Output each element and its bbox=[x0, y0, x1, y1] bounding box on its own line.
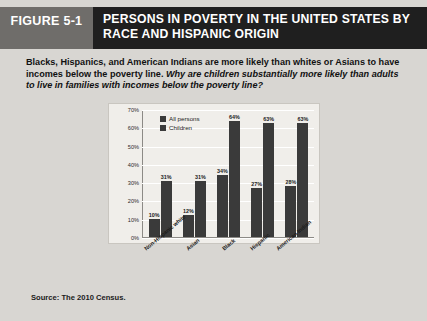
y-axis-tick-label: 0% bbox=[131, 235, 139, 241]
x-axis-category-labels: Non-Hispanic whiteAsianBlackHispanicAmer… bbox=[141, 245, 323, 300]
figure-caption: Blacks, Hispanics, and American Indians … bbox=[26, 57, 404, 92]
bar-group: 28%63% bbox=[285, 110, 308, 237]
figure-title: PERSONS IN POVERTY IN THE UNITED STATES … bbox=[103, 12, 419, 41]
y-axis-tick-label: 10% bbox=[128, 217, 139, 223]
bar-value-label: 63% bbox=[297, 116, 308, 122]
figure-page: FIGURE 5-1 PERSONS IN POVERTY IN THE UNI… bbox=[0, 0, 427, 321]
bar-value-label: 63% bbox=[263, 116, 274, 122]
y-axis-tick-label: 20% bbox=[128, 198, 139, 204]
bar-value-label: 10% bbox=[149, 212, 160, 218]
bar[interactable]: 34% bbox=[217, 175, 228, 237]
bar-group: 27%63% bbox=[251, 110, 274, 237]
figure-number-tag: FIGURE 5-1 bbox=[0, 7, 93, 49]
source-note: Source: The 2010 Census. bbox=[31, 293, 126, 302]
bar-value-label: 27% bbox=[251, 181, 262, 187]
legend-swatch-icon bbox=[160, 116, 166, 122]
legend-item-all-persons: All persons bbox=[160, 115, 200, 122]
bar-group: 34%64% bbox=[217, 110, 240, 237]
bar-value-label: 31% bbox=[195, 174, 206, 180]
y-axis-tick-label: 60% bbox=[128, 125, 139, 131]
bar[interactable]: 31% bbox=[195, 181, 206, 237]
chart-legend: All persons Children bbox=[160, 115, 200, 133]
bar-value-label: 34% bbox=[217, 168, 228, 174]
legend-label: Children bbox=[169, 124, 192, 131]
y-axis-tick-label: 70% bbox=[128, 107, 139, 113]
figure-header: FIGURE 5-1 PERSONS IN POVERTY IN THE UNI… bbox=[0, 7, 427, 49]
bar-value-label: 64% bbox=[229, 114, 240, 120]
bar-value-label: 28% bbox=[285, 179, 296, 185]
legend-label: All persons bbox=[169, 115, 200, 122]
bar[interactable]: 27% bbox=[251, 188, 262, 237]
y-axis-tick-label: 30% bbox=[128, 180, 139, 186]
y-axis-tick-label: 40% bbox=[128, 162, 139, 168]
bar[interactable]: 64% bbox=[229, 121, 240, 237]
legend-swatch-icon bbox=[160, 125, 166, 131]
y-axis-tick-label: 50% bbox=[128, 144, 139, 150]
legend-item-children: Children bbox=[160, 124, 200, 131]
figure-title-container: PERSONS IN POVERTY IN THE UNITED STATES … bbox=[93, 7, 427, 49]
bar-value-label: 31% bbox=[161, 174, 172, 180]
chart-container: 70%60%50%40%30%20%10%0% 10%31%12%31%34%6… bbox=[108, 103, 320, 244]
chart-plot-area: 70%60%50%40%30%20%10%0% 10%31%12%31%34%6… bbox=[142, 110, 314, 238]
bar[interactable]: 63% bbox=[263, 123, 274, 237]
bar-value-label: 12% bbox=[183, 208, 194, 214]
